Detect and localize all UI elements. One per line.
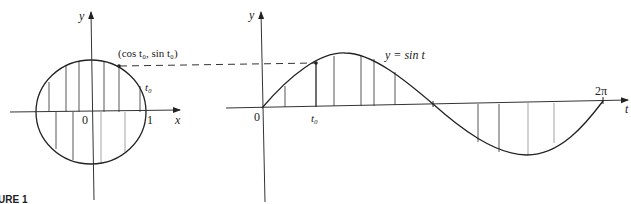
unit-circle-panel: y x 0 1 (cos t₀, sin t₀) t₀ xyxy=(10,9,181,200)
circle-y-axis xyxy=(91,12,94,200)
sine-y-axis-label: y xyxy=(248,8,255,22)
circle-lower-hatch-lines xyxy=(56,112,125,164)
sine-origin-label: 0 xyxy=(254,110,260,124)
point-sin-t0 xyxy=(314,61,318,65)
circle-upper-hatch-lines xyxy=(49,61,140,112)
sine-hatch-lines xyxy=(285,55,554,155)
unit-circle-sine-figure: y x 0 1 (cos t₀, sin t₀) t₀ xyxy=(0,0,631,204)
circle-x-axis-label: x xyxy=(174,113,181,127)
point-label: (cos t₀, sin t₀) xyxy=(118,47,178,60)
projection-dashed-line xyxy=(120,63,316,66)
sine-two-pi-label: 2π xyxy=(595,84,607,98)
sine-t-axis xyxy=(226,100,628,108)
sine-graph-panel: y t 0 t₀ 2π y = sin t xyxy=(226,8,629,202)
sine-t0-label: t₀ xyxy=(311,112,318,124)
circle-origin-label: 0 xyxy=(82,113,88,127)
sine-curve-label: y = sin t xyxy=(384,48,425,62)
figure-caption: URE 1 xyxy=(0,194,28,204)
circle-one-label: 1 xyxy=(147,113,153,127)
sine-t-axis-label: t xyxy=(625,102,629,116)
arc-t0-label: t₀ xyxy=(145,81,152,93)
circle-y-axis-label: y xyxy=(78,9,85,23)
